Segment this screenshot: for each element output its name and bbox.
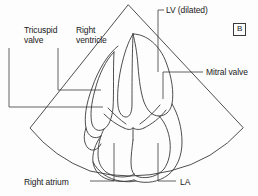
left-atrium-chamber [134, 116, 170, 178]
tricuspid-valve-leaflets [104, 108, 133, 130]
interatrial-septum [131, 140, 134, 174]
label-la: LA [180, 178, 190, 188]
ultrasound-sector-outline [30, 5, 243, 176]
label-mitral-valve: Mitral valve [206, 68, 248, 78]
interventricular-septum [118, 34, 133, 117]
label-tricuspid-valve: Tricuspid valve [24, 26, 57, 45]
mitral-valve-leaflets [133, 105, 166, 130]
label-right-atrium: Right atrium [24, 178, 69, 188]
label-lv-dilated: LV (dilated) [166, 6, 208, 16]
leader-right-atrium [90, 143, 114, 181]
panel-label-b: B [233, 23, 246, 36]
echocardiogram-figure: Tricuspid valve Right ventricle LV (dila… [0, 0, 258, 196]
leader-right-ventricle [58, 48, 101, 90]
leader-mitral-valve [163, 72, 203, 99]
right-atrium-chamber [98, 129, 134, 177]
label-right-ventricle: Right ventricle [76, 26, 107, 45]
right-ventricle-chamber [91, 52, 114, 130]
atrial-floor [93, 162, 136, 182]
